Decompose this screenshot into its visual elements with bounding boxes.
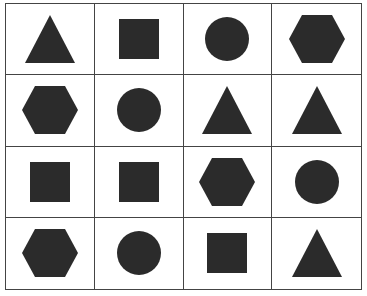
grid-cell-r4-c2 — [95, 218, 184, 289]
circle-icon — [287, 154, 347, 210]
grid-cell-r1-c1 — [6, 4, 95, 75]
triangle-icon — [20, 11, 80, 67]
triangle-icon — [197, 82, 257, 138]
grid-cell-r4-c3 — [184, 218, 273, 289]
hexagon-icon — [20, 225, 80, 281]
circle-icon — [109, 225, 169, 281]
grid-cell-r4-c4 — [272, 218, 361, 289]
circle-icon — [197, 11, 257, 67]
grid-cell-r3-c1 — [6, 147, 95, 218]
triangle-icon — [287, 82, 347, 138]
grid-cell-r1-c2 — [95, 4, 184, 75]
grid-cell-r2-c1 — [6, 75, 95, 146]
hexagon-icon — [287, 11, 347, 67]
hexagon-icon — [197, 154, 257, 210]
square-icon — [197, 225, 257, 281]
grid-cell-r3-c3 — [184, 147, 273, 218]
square-icon — [109, 154, 169, 210]
triangle-icon — [287, 225, 347, 281]
shape-grid — [5, 3, 362, 290]
grid-cell-r1-c4 — [272, 4, 361, 75]
grid-cell-r3-c4 — [272, 147, 361, 218]
grid-cell-r2-c2 — [95, 75, 184, 146]
grid-cell-r2-c3 — [184, 75, 273, 146]
grid-cell-r3-c2 — [95, 147, 184, 218]
circle-icon — [109, 82, 169, 138]
hexagon-icon — [20, 82, 80, 138]
grid-cell-r1-c3 — [184, 4, 273, 75]
grid-cell-r2-c4 — [272, 75, 361, 146]
square-icon — [109, 11, 169, 67]
square-icon — [20, 154, 80, 210]
grid-cell-r4-c1 — [6, 218, 95, 289]
